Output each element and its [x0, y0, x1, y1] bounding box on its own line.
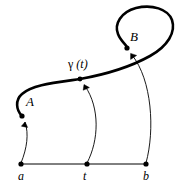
point-a-dot [18, 161, 23, 166]
point-b-dot [143, 161, 148, 166]
label-gamma-of-t: γ (t) [68, 58, 88, 70]
label-t: t [83, 170, 86, 182]
arrow-b-to-B-head [131, 53, 137, 59]
label-A: A [26, 95, 34, 108]
arrow-t-to-gamma-path [85, 86, 96, 163]
label-B: B [130, 30, 138, 43]
point-B-dot [124, 45, 129, 50]
arrow-a-to-A-path [21, 122, 27, 163]
label-b: b [143, 170, 149, 182]
point-gamma-t-dot [78, 77, 83, 82]
gamma-argument: (t) [76, 57, 87, 71]
gamma-curve-path [17, 7, 173, 116]
arrow-t-to-gamma-head [83, 85, 89, 91]
point-t-dot [84, 161, 89, 166]
curve-figure: A B γ (t) a t b [0, 0, 180, 188]
label-a: a [18, 170, 24, 182]
arrow-a-to-A-head [21, 122, 27, 127]
arrow-b-to-B-path [132, 55, 151, 163]
gamma-symbol: γ [68, 57, 73, 71]
point-A-dot [19, 113, 24, 118]
